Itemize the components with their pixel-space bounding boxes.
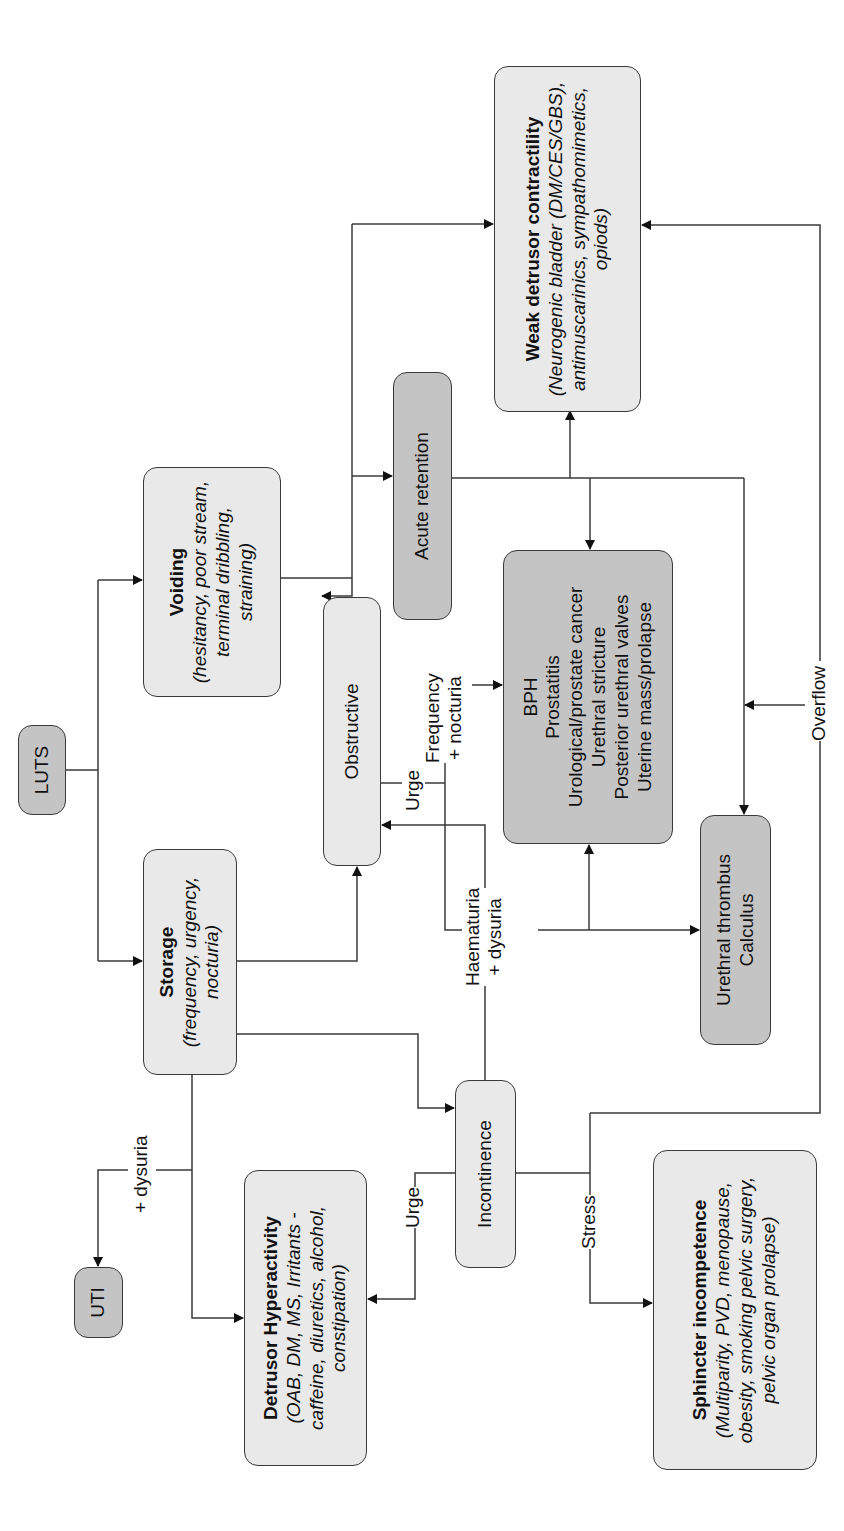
- cause-valves: Posterior urethral valves: [611, 595, 634, 800]
- edge-label-overflow: Overflow: [808, 666, 831, 741]
- acute-retention-node: Acute retention: [393, 372, 452, 620]
- calculus-line: Calculus: [736, 894, 759, 967]
- obstruction-causes-node: BPH Prostatitis Urological/prostate canc…: [503, 550, 673, 844]
- incontinence-label: Incontinence: [474, 1120, 497, 1228]
- luts-label: LUTS: [31, 746, 54, 795]
- incontinence-node: Incontinence: [455, 1080, 516, 1268]
- flowchart-canvas: LUTS Voiding (hesitancy, poor stream, te…: [0, 0, 844, 1531]
- uti-label: UTI: [87, 1287, 110, 1318]
- thrombus-line: Urethral thrombus: [713, 854, 736, 1006]
- edge-label-dysuria: + dysuria: [130, 1135, 153, 1213]
- detrusor-hyperactivity-node: Detrusor Hyperactivity (OAB, DM, MS, Irr…: [244, 1170, 367, 1466]
- weak-detrusor-node: Weak detrusor contractility (Neurogenic …: [494, 66, 641, 412]
- sphincter-title: Sphincter incompetence: [689, 1200, 712, 1421]
- haematuria-line2: + dysuria: [484, 888, 506, 986]
- storage-detail: (frequency, urgency, nocturia): [179, 860, 225, 1064]
- edge-label-frequency: Frequency + nocturia: [422, 673, 466, 763]
- weak-detrusor-title: Weak detrusor contractility: [522, 117, 545, 362]
- weak-detrusor-detail: (Neurogenic bladder (DM/CES/GBS), antimu…: [545, 77, 613, 401]
- sphincter-incompetence-node: Sphincter incompetence (Multiparity, PVD…: [653, 1150, 817, 1470]
- cause-uterine: Uterine mass/prolapse: [634, 602, 657, 792]
- cause-prostatitis: Prostatitis: [542, 655, 565, 738]
- edge-label-stress: Stress: [578, 1195, 601, 1249]
- voiding-node: Voiding (hesitancy, poor stream, termina…: [143, 467, 281, 697]
- cause-bph: BPH: [520, 677, 543, 716]
- detrusor-hyperactivity-detail: (OAB, DM, MS, Irritants - caffeine, diur…: [283, 1181, 351, 1455]
- edge-label-urge-detrusor: Urge: [402, 1187, 425, 1228]
- frequency-line1: Frequency: [422, 673, 444, 763]
- storage-title: Storage: [156, 927, 179, 998]
- obstructive-label: Obstructive: [341, 683, 364, 779]
- acute-retention-label: Acute retention: [411, 432, 434, 560]
- sphincter-detail: (Multiparity, PVD, menopause, obesity, s…: [712, 1161, 780, 1459]
- obstructive-node: Obstructive: [323, 597, 381, 866]
- frequency-line2: + nocturia: [444, 673, 466, 763]
- cause-cancer: Urological/prostate cancer: [565, 587, 588, 808]
- edge-label-urge-obstructive: Urge: [402, 770, 425, 811]
- detrusor-hyperactivity-title: Detrusor Hyperactivity: [260, 1216, 283, 1420]
- haematuria-line1: Haematuria: [462, 888, 484, 986]
- uti-node: UTI: [74, 1267, 123, 1338]
- voiding-title: Voiding: [166, 548, 189, 616]
- edge-label-haematuria: Haematuria + dysuria: [462, 888, 506, 986]
- urethral-thrombus-node: Urethral thrombus Calculus: [700, 815, 771, 1045]
- voiding-detail: (hesitancy, poor stream, terminal dribbl…: [189, 478, 257, 686]
- storage-node: Storage (frequency, urgency, nocturia): [143, 849, 237, 1075]
- luts-node: LUTS: [18, 725, 66, 815]
- cause-stricture: Urethral stricture: [588, 627, 611, 767]
